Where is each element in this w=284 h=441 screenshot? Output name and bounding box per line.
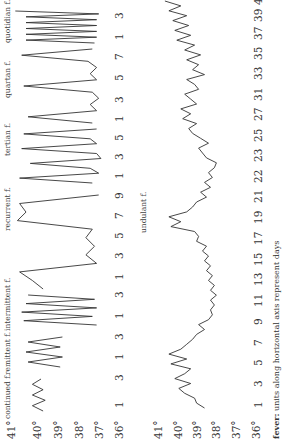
label-quotidian-fever: quotidian f. <box>3 0 12 43</box>
bottom-x-axis: 1 3 5 7 9 11 13 15 17 19 21 22 23 25 27 … <box>252 0 264 408</box>
top-xtick: 3 <box>113 333 125 340</box>
bottom-xtick: 21 <box>252 190 264 203</box>
top-xtick: 1 <box>113 115 125 122</box>
label-continued-fever: continued f. <box>3 374 12 419</box>
fever-chart: 41° 40° 39° 38° 37° 36° continued f. rem… <box>0 0 284 441</box>
top-xtick: 3 <box>113 96 125 103</box>
bottom-xtick: 37 <box>252 27 264 40</box>
fever-curve-undulant <box>165 1 217 408</box>
top-xtick: 3 <box>113 252 125 259</box>
top-xtick: 3 <box>113 153 125 160</box>
bottom-xtick: 11 <box>252 294 264 307</box>
bottom-xtick: 22 <box>252 170 264 183</box>
bottom-xtick: 23 <box>252 149 264 162</box>
bottom-ytick: 36° <box>250 420 262 439</box>
fever-curve-quartan-f <box>22 49 99 123</box>
top-xtick: 1 <box>113 172 125 179</box>
bottom-xtick: 1 <box>252 401 264 408</box>
figure-caption: fever: units along horizontal axis repre… <box>271 241 281 439</box>
top-xtick: 3 <box>113 12 125 19</box>
top-xtick: 1 <box>113 312 125 319</box>
caption-term: fever: <box>271 414 281 439</box>
bottom-xtick: 19 <box>252 211 264 224</box>
bottom-xtick: 5 <box>252 359 264 366</box>
bottom-xtick: 3 <box>252 380 264 387</box>
top-ytick: 36° <box>113 420 125 439</box>
top-xtick: 7 <box>113 212 125 219</box>
top-xtick: 1 <box>113 401 125 408</box>
bottom-xtick: 7 <box>252 339 264 346</box>
top-xtick: 3 <box>113 291 125 298</box>
bottom-xtick: 31 <box>252 88 264 101</box>
top-ytick: 37° <box>93 420 105 439</box>
label-undulant-fever: undulant f. <box>139 192 148 233</box>
bottom-xtick: 13 <box>252 273 264 286</box>
bottom-ytick: 40° <box>172 420 184 439</box>
top-xtick: 1 <box>113 353 125 360</box>
top-xtick: 5 <box>113 74 125 81</box>
bottom-xtick: 33 <box>252 67 264 80</box>
top-y-axis: 41° 40° 39° 38° 37° 36° <box>5 420 125 439</box>
label-tertian-fever: tertian f. <box>3 123 12 156</box>
top-ytick: 41° <box>5 420 17 439</box>
fever-curve-recurrent-f <box>17 195 98 289</box>
top-xtick: 5 <box>113 232 125 239</box>
label-intermittent-fever: intermittent f. <box>3 278 12 331</box>
top-xtick: 3 <box>113 374 125 381</box>
caption-text: units along horizontal axis represent da… <box>272 241 281 414</box>
label-quartan-fever: quartan f. <box>3 61 12 98</box>
bottom-xtick: 41 <box>252 0 264 5</box>
top-xtick: 7 <box>113 53 125 60</box>
top-panel-labels: continued f. remittent f. intermittent f… <box>3 0 12 419</box>
bottom-ytick: 38° <box>210 420 222 439</box>
fever-chart-figure: 41° 40° 39° 38° 37° 36° continued f. rem… <box>0 0 284 441</box>
label-remittent-fever: remittent f. <box>3 332 12 375</box>
fever-curve-quotidian-f <box>15 11 98 43</box>
top-panel-curves <box>15 11 101 411</box>
bottom-xtick: 9 <box>252 318 264 325</box>
top-xtick: 9 <box>113 192 125 199</box>
top-ytick: 40° <box>31 420 43 439</box>
undulant-fever-curve <box>165 1 217 408</box>
bottom-xtick: 15 <box>252 253 264 266</box>
bottom-ytick: 39° <box>191 420 203 439</box>
fever-curve-remittent-f <box>26 337 62 367</box>
top-xtick: 1 <box>113 33 125 40</box>
top-ytick: 38° <box>73 420 85 439</box>
bottom-ytick: 37° <box>230 420 242 439</box>
top-ytick: 39° <box>52 420 64 439</box>
top-xtick: 5 <box>113 134 125 141</box>
bottom-xtick: 39 <box>252 9 264 22</box>
label-recurrent-fever: recurrent f. <box>3 187 12 231</box>
bottom-ytick: 41° <box>152 420 164 439</box>
fever-curve-tertian-f <box>20 129 101 183</box>
bottom-xtick: 27 <box>252 108 264 121</box>
bottom-y-axis: 41° 40° 39° 38° 37° 36° <box>152 420 262 439</box>
fever-curve-intermittent-f <box>22 295 97 325</box>
top-x-axis: 1 3 1 3 1 3 1 3 5 7 9 1 3 5 1 3 5 7 1 3 <box>113 12 125 408</box>
fever-curve-continued-f <box>32 379 45 411</box>
top-xtick: 1 <box>113 273 125 280</box>
bottom-xtick: 35 <box>252 47 264 60</box>
bottom-xtick: 25 <box>252 129 264 142</box>
bottom-xtick: 17 <box>252 232 264 245</box>
